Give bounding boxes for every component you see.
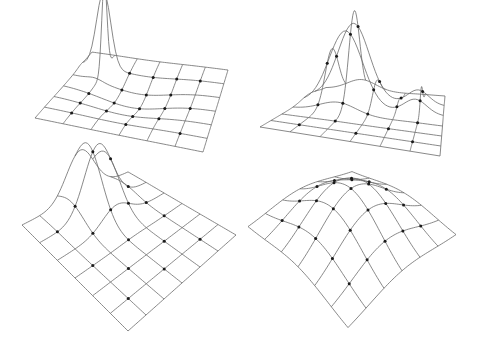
grid-node	[350, 178, 353, 181]
grid-node	[357, 25, 360, 28]
grid-node	[384, 240, 387, 243]
grid-node	[138, 107, 141, 110]
grid-node	[400, 97, 403, 100]
grid-node	[354, 132, 357, 135]
grid-node	[128, 72, 131, 75]
grid-node	[421, 90, 424, 93]
grid-node	[163, 107, 166, 110]
grid-line-col-1	[265, 213, 366, 308]
grid-node	[366, 258, 369, 261]
grid-node	[298, 123, 301, 126]
surface-plots-figure	[0, 0, 477, 342]
grid-node	[298, 199, 301, 202]
grid-line-col-4	[93, 151, 200, 267]
grid-node	[124, 123, 127, 126]
grid-node	[333, 179, 336, 182]
surface-panel-bottom-left	[22, 143, 236, 331]
grid-node	[334, 120, 337, 123]
grid-node	[120, 88, 123, 91]
grid-node	[87, 92, 90, 95]
grid-node	[175, 78, 178, 81]
grid-line-row-0	[92, 52, 228, 70]
surface-panel-top-left	[35, 0, 228, 152]
grid-node	[145, 201, 148, 204]
surface-panel-top-right	[260, 11, 445, 156]
grid-node	[366, 113, 369, 116]
grid-line-row-5	[45, 107, 208, 138]
grid-node	[387, 127, 390, 130]
grid-node	[157, 117, 160, 120]
grid-line-row-4	[282, 114, 442, 136]
grid-node	[127, 238, 130, 241]
grid-line-col-2	[283, 200, 384, 288]
grid-node	[314, 237, 317, 240]
grid-node	[384, 202, 387, 205]
grid-node	[145, 93, 148, 96]
surface-panel-bottom-right	[248, 172, 456, 328]
grid-node	[199, 79, 202, 82]
grid-node	[91, 264, 94, 267]
grid-node	[372, 88, 375, 91]
grid-node	[385, 188, 388, 191]
grid-node	[367, 209, 370, 212]
grid-node	[105, 109, 108, 112]
grid-line-row-5	[331, 220, 438, 307]
grid-node	[297, 225, 300, 228]
grid-node	[395, 105, 398, 108]
grid-node	[127, 267, 130, 270]
grid-line-col-3	[300, 183, 402, 271]
grid-node	[91, 150, 94, 153]
grid-line-col-2	[320, 11, 366, 137]
grid-node	[419, 224, 422, 227]
grid-node	[368, 180, 371, 183]
grid-node	[199, 238, 202, 241]
grid-node	[326, 62, 329, 65]
grid-node	[91, 232, 94, 235]
grid-node	[109, 208, 112, 211]
grid-node	[189, 107, 192, 110]
grid-node	[348, 282, 351, 285]
grid-node	[315, 199, 318, 202]
grid-node	[169, 93, 172, 96]
grid-line-row-6	[348, 235, 456, 328]
grid-line-row-1	[83, 0, 224, 84]
grid-node	[316, 103, 319, 106]
grid-node	[127, 185, 130, 188]
grid-line-col-4	[147, 65, 183, 141]
grid-node	[179, 132, 182, 135]
grid-node	[70, 111, 73, 114]
grid-node	[402, 203, 405, 206]
grid-node	[416, 121, 419, 124]
grid-node	[411, 140, 414, 143]
grid-node	[56, 230, 59, 233]
grid-node	[419, 99, 422, 102]
grid-line-col-1	[63, 0, 115, 124]
grid-line-row-4	[315, 203, 422, 285]
grid-line-row-3	[298, 184, 404, 267]
grid-line-col-4	[317, 178, 420, 257]
grid-line-row-4	[54, 97, 211, 125]
grid-node	[113, 101, 116, 104]
grid-node	[335, 55, 338, 58]
grid-line-col-6	[352, 172, 456, 235]
grid-node	[79, 102, 82, 105]
grid-node	[152, 76, 155, 79]
grid-node	[163, 267, 166, 270]
grid-node	[163, 214, 166, 217]
grid-node	[349, 229, 352, 232]
grid-node	[332, 207, 335, 210]
grid-line-row-0	[326, 80, 445, 96]
grid-node	[341, 102, 344, 105]
grid-node	[74, 205, 77, 208]
grid-node	[109, 157, 112, 160]
grid-node	[127, 202, 130, 205]
grid-node	[401, 229, 404, 232]
grid-node	[131, 115, 134, 118]
grid-node	[127, 297, 130, 300]
grid-node	[316, 185, 319, 188]
grid-line-col-3	[75, 143, 182, 283]
grid-node	[378, 80, 381, 83]
grid-node	[281, 219, 284, 222]
grid-line-row-1	[315, 23, 444, 105]
grid-node	[350, 187, 353, 190]
